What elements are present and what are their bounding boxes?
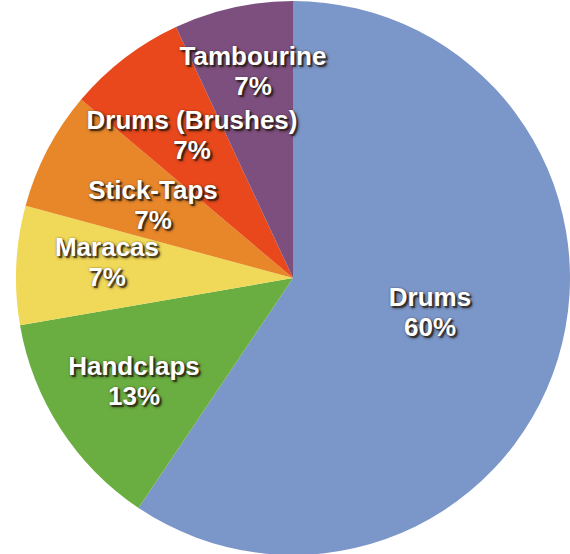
pie-slice-layer [16,1,570,554]
pie-chart [0,0,570,554]
pie-chart-page: Drums60%Handclaps13%Maracas7%Stick-Taps7… [0,0,570,554]
